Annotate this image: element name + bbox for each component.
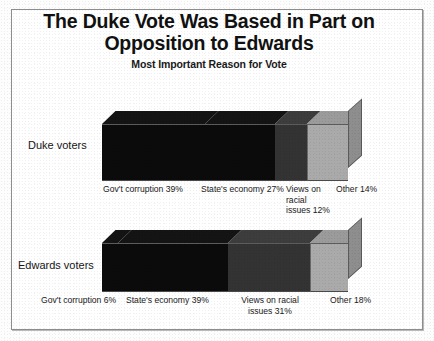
value-label-edwards-govt-corruption: Gov't corruption 6%	[41, 295, 116, 306]
segment-front-face	[228, 243, 310, 292]
segment-top-face	[118, 230, 241, 243]
bar-edwards-voters	[102, 243, 348, 292]
value-label-edwards-racial-issues: Views on racial issues 31%	[228, 295, 312, 316]
segment-top-face	[102, 111, 218, 124]
segment-front-face	[102, 243, 118, 292]
segment-front-face	[205, 124, 275, 181]
segment-front-face	[102, 124, 205, 181]
bar-segment-duke-states-economy	[205, 124, 275, 181]
value-label-duke-govt-corruption: Gov't corruption 39%	[103, 184, 183, 195]
segment-front-face	[275, 124, 307, 181]
bar-segment-edwards-other	[310, 243, 348, 292]
value-label-edwards-other: Other 18%	[330, 295, 371, 306]
chart-subtitle: Most Important Reason for Vote	[14, 58, 404, 70]
bar-segment-edwards-govt-corruption	[102, 243, 118, 292]
value-label-duke-racial-issues: Views on racial issues 12%	[286, 184, 330, 216]
value-label-edwards-states-economy: State's economy 39%	[126, 295, 209, 306]
category-label-duke-voters: Duke voters	[28, 139, 87, 151]
segment-top-face	[228, 230, 323, 243]
bar-duke-voters	[102, 124, 348, 181]
chart-title-line-2: Opposition to Edwards	[14, 32, 404, 54]
segment-front-face	[310, 243, 348, 292]
segment-front-face	[307, 124, 348, 181]
chart-image: The Duke Vote Was Based in Part on Oppos…	[0, 0, 434, 341]
segment-front-face	[118, 243, 228, 292]
chart-title-line-1: The Duke Vote Was Based in Part on	[14, 10, 404, 32]
value-label-duke-other: Other 14%	[336, 184, 377, 195]
bar-segment-duke-govt-corruption	[102, 124, 205, 181]
bar-segment-edwards-racial-issues	[228, 243, 310, 292]
bar-segment-edwards-states-economy	[118, 243, 228, 292]
value-label-duke-states-economy: State's economy 27%	[201, 184, 284, 195]
bar-segment-duke-other	[307, 124, 348, 181]
category-label-edwards-voters: Edwards voters	[18, 259, 94, 271]
chart-title: The Duke Vote Was Based in Part on Oppos…	[14, 10, 404, 54]
bar-segment-duke-racial-issues	[275, 124, 307, 181]
